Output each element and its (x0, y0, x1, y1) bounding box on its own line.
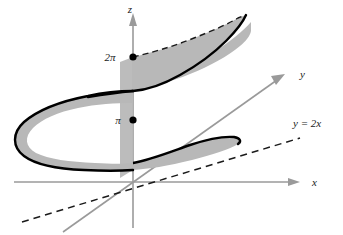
trace-line-label: y = 2x (292, 117, 321, 129)
z-tick-pi-label: π (115, 114, 121, 126)
filled-dot-marker (129, 116, 136, 123)
helicoid-figure: 2π π z y x y = 2x (0, 0, 343, 235)
z-tick-2pi-label: 2π (104, 51, 116, 63)
x-axis-label: x (311, 176, 317, 188)
z-axis-label: z (127, 3, 133, 15)
filled-dot-marker (129, 53, 136, 60)
y-axis-label: y (299, 68, 305, 80)
figure-background (0, 0, 343, 235)
